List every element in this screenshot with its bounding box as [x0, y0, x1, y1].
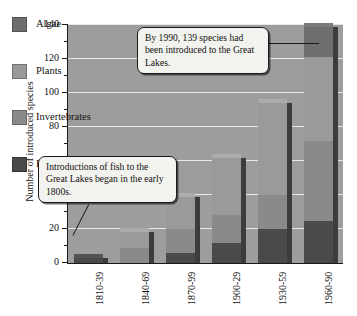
bar-segment-invertebrates	[258, 195, 287, 229]
legend-label: Algae	[36, 19, 61, 30]
y-axis-tick-major	[62, 262, 68, 264]
legend-swatch-fish	[12, 157, 27, 172]
y-axis-tick-major	[62, 126, 68, 128]
y-axis-tick-major	[62, 24, 68, 26]
x-axis-tick-label: 1900-29	[231, 272, 242, 305]
bar-segment-invertebrates	[166, 229, 195, 253]
x-axis-tick-label: 1930-59	[277, 272, 288, 305]
bar-1960-90	[304, 27, 333, 263]
bar-top-face	[258, 99, 287, 103]
y-axis-tick-major	[62, 92, 68, 94]
legend-label: Plants	[36, 66, 62, 77]
bar-segment-invertebrates	[304, 141, 333, 221]
bar-1930-59	[258, 103, 287, 263]
y-axis-tick-minor	[64, 143, 68, 145]
y-axis-tick-major	[62, 58, 68, 60]
gridline	[68, 24, 343, 26]
chart-figure: Number of introduced species 02040608010…	[0, 0, 357, 316]
y-axis-tick-label: 120	[19, 53, 59, 63]
bar-1810-39	[74, 258, 103, 263]
legend-item-plants: Plants	[12, 64, 62, 79]
bar-segment-fish	[258, 229, 287, 263]
callout-fish-text: Introductions of fish to the Great Lakes…	[46, 161, 163, 197]
bar-1870-99	[166, 197, 195, 263]
x-axis-tick-label: 1840-69	[140, 272, 151, 305]
gridline	[68, 126, 343, 128]
bar-segment-fish	[304, 221, 333, 264]
y-axis-tick-major	[62, 228, 68, 230]
bar-segment-fish	[166, 253, 195, 263]
x-axis-tick-label: 1960-90	[323, 272, 334, 305]
callout-fish: Introductions of fish to the Great Lakes…	[38, 156, 177, 203]
bar-top-face	[212, 154, 241, 158]
bar-side-face	[195, 197, 200, 263]
bar-side-face	[287, 103, 292, 263]
bar-segment-plants	[304, 57, 333, 140]
bar-1840-69	[120, 232, 149, 263]
legend-item-invertebrates: Invertebrates	[12, 110, 91, 125]
x-axis-tick-label: 1870-99	[186, 272, 197, 305]
bar-segment-plants	[212, 158, 241, 216]
y-axis-tick-minor	[64, 75, 68, 77]
bar-1900-29	[212, 158, 241, 263]
bar-top-face	[304, 23, 333, 27]
legend-swatch-algae	[12, 17, 27, 32]
y-axis-tick-label: 0	[19, 257, 59, 267]
y-axis-tick-label: 20	[19, 223, 59, 233]
callout-1990-text: By 1990, 139 species had been introduced…	[145, 32, 254, 68]
legend-swatch-invertebrates	[12, 110, 27, 125]
bar-side-face	[333, 27, 338, 263]
bar-segment-invertebrates	[212, 215, 241, 242]
legend-label: Invertebrates	[36, 112, 91, 123]
callout-1990-leader	[262, 43, 319, 44]
legend-swatch-plants	[12, 64, 27, 79]
y-axis-tick-minor	[64, 211, 68, 213]
y-axis-tick-minor	[64, 245, 68, 247]
bar-side-face	[241, 158, 246, 263]
bar-side-face	[149, 232, 154, 263]
bar-segment-plants	[120, 232, 149, 247]
bar-segment-fish	[74, 258, 103, 263]
x-axis-tick-label: 1810-39	[94, 272, 105, 305]
bar-side-face	[103, 258, 108, 263]
bar-segment-invertebrates	[120, 248, 149, 263]
gridline	[68, 228, 343, 230]
bar-segment-plants	[258, 103, 287, 195]
y-axis-tick-label: 100	[19, 87, 59, 97]
bar-segment-fish	[212, 243, 241, 263]
bar-top-face	[120, 228, 149, 232]
y-axis-tick-minor	[64, 41, 68, 43]
legend-item-algae: Algae	[12, 17, 61, 32]
bar-top-face	[74, 254, 103, 258]
callout-1990: By 1990, 139 species had been introduced…	[137, 27, 269, 74]
gridline	[68, 92, 343, 94]
